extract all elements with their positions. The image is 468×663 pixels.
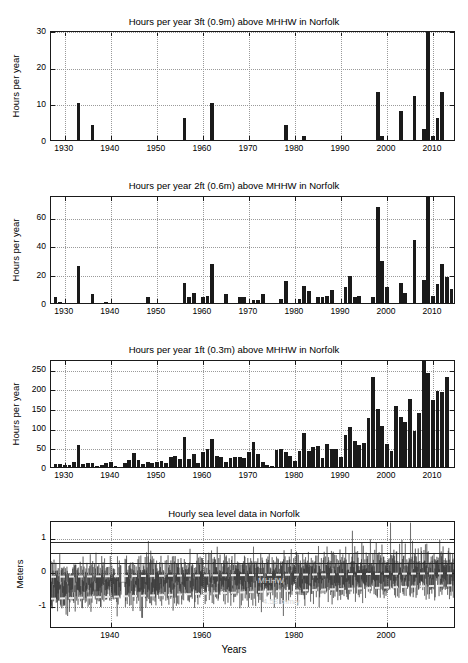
bar <box>376 409 380 467</box>
bar <box>137 460 141 467</box>
bar <box>141 464 145 467</box>
bar <box>426 31 430 140</box>
gridline-vertical <box>387 32 389 140</box>
bar <box>183 118 187 140</box>
bar <box>450 289 454 303</box>
bar <box>344 287 348 303</box>
bar <box>201 452 205 467</box>
bar <box>206 296 210 303</box>
bar <box>72 462 76 467</box>
bar <box>445 377 449 467</box>
ytick-mark <box>450 410 454 411</box>
bar <box>63 465 67 467</box>
xtick-mark <box>387 136 388 140</box>
bar <box>380 261 384 303</box>
bar <box>187 297 191 303</box>
bar <box>114 466 118 467</box>
bar <box>330 449 334 467</box>
bar <box>95 466 99 467</box>
ytick-mark <box>450 390 454 391</box>
ytick-mark <box>450 449 454 450</box>
bar <box>192 454 196 467</box>
xtick-label: 1990 <box>320 144 360 153</box>
ytick-mark <box>51 105 55 106</box>
bar <box>353 441 357 467</box>
threshold-line <box>51 542 454 543</box>
bar <box>353 297 357 303</box>
bar <box>426 373 430 467</box>
ytick-label: 0 <box>6 567 46 576</box>
bar <box>376 92 380 140</box>
ytick-label: 30 <box>6 27 46 36</box>
bar <box>160 461 164 467</box>
ytick-mark <box>450 219 454 220</box>
bar <box>270 466 274 467</box>
ytick-label: 0 <box>6 300 46 309</box>
gridline-horizontal <box>51 32 454 34</box>
xtick-mark <box>111 197 112 201</box>
xtick-mark <box>341 299 342 303</box>
ytick-mark <box>51 32 55 33</box>
panel-title-hours-2ft: Hours per year 2ft (0.6m) above MHHW in … <box>0 180 468 191</box>
xlabel-years: Years <box>0 644 468 655</box>
gridline-vertical <box>203 197 205 303</box>
ytick-mark <box>450 105 454 106</box>
xtick-mark <box>111 361 112 365</box>
xtick-label: 1930 <box>44 307 84 316</box>
bar <box>334 449 338 467</box>
bar <box>247 452 251 467</box>
bar <box>201 297 205 303</box>
xtick-label: 2010 <box>412 144 452 153</box>
xtick-mark <box>433 361 434 365</box>
xtick-mark <box>341 361 342 365</box>
bar <box>229 458 233 467</box>
gridline-horizontal <box>51 247 454 249</box>
bar <box>344 435 348 467</box>
bar <box>321 458 325 467</box>
ytick-mark <box>450 430 454 431</box>
bar <box>302 433 306 467</box>
xtick-label: 1980 <box>274 471 314 480</box>
bar <box>91 125 95 140</box>
xtick-label: 1930 <box>44 144 84 153</box>
ytick-mark <box>450 69 454 70</box>
bar <box>275 450 279 467</box>
xtick-label: 1940 <box>90 307 130 316</box>
bar <box>316 297 320 303</box>
bar <box>440 264 444 303</box>
xtick-label: 2000 <box>366 144 406 153</box>
gridline-vertical <box>295 32 297 140</box>
gridline-vertical <box>157 32 159 140</box>
ytick-mark <box>51 410 55 411</box>
bar <box>311 447 315 467</box>
bar <box>104 302 108 303</box>
bar <box>284 125 288 140</box>
bar <box>252 442 256 467</box>
ytick-mark <box>450 371 454 372</box>
bar <box>440 392 444 467</box>
gridline-vertical <box>249 197 251 303</box>
plot-area-hourly-sea-level: MHHW4.58 mm/y <box>50 521 455 628</box>
bar <box>357 445 361 467</box>
bar <box>436 391 440 467</box>
xtick-label: 1930 <box>44 471 84 480</box>
bar <box>261 462 265 467</box>
gridline-horizontal <box>51 390 454 392</box>
bar <box>302 136 306 140</box>
bar <box>242 297 246 303</box>
xtick-label: 1960 <box>182 631 222 640</box>
xtick-mark <box>157 197 158 201</box>
annotation-0: MHHW <box>258 576 284 585</box>
ytick-mark <box>450 276 454 277</box>
xtick-mark <box>65 136 66 140</box>
xtick-mark <box>203 136 204 140</box>
bar <box>380 426 384 467</box>
xtick-label: 1940 <box>90 471 130 480</box>
gridline-horizontal <box>51 276 454 278</box>
bar <box>408 399 412 467</box>
xtick-mark <box>249 299 250 303</box>
xtick-label: 1950 <box>136 471 176 480</box>
xtick-label: 1940 <box>90 144 130 153</box>
bar <box>298 451 302 467</box>
gridline-vertical <box>65 32 67 140</box>
